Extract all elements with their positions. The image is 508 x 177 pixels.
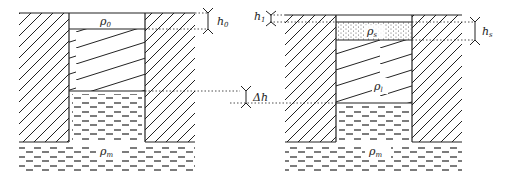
h0-dimension-marker: [203, 8, 213, 34]
hs-dimension-marker: [470, 17, 480, 45]
isostasy-diagram: ρ0 ρm h0 Δh: [0, 0, 508, 177]
left-infill: [69, 29, 145, 91]
left-wall-left: [19, 13, 69, 142]
sediment-thickness-label: hs: [482, 25, 493, 39]
delta-h-label: Δh: [252, 91, 268, 104]
right-panel: ρs ρl ρm h1 hs: [254, 10, 493, 172]
left-wall-right: [145, 13, 195, 142]
h1-dimension-marker: [266, 11, 276, 26]
right-wall-right: [412, 15, 462, 142]
top-gap-label: h1: [254, 10, 266, 24]
right-wall-left: [285, 15, 336, 142]
left-panel: ρ0 ρm h0: [19, 8, 240, 172]
water-depth-label: h0: [217, 15, 229, 29]
